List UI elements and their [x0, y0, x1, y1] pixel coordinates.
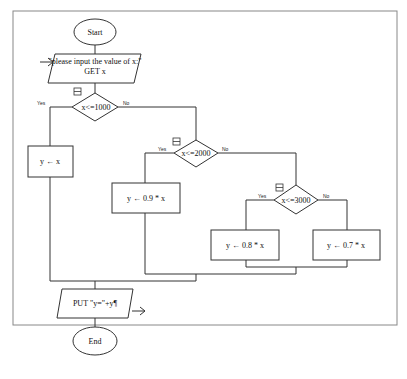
- start-terminal[interactable]: Start: [74, 19, 116, 45]
- no-label: No: [323, 193, 330, 199]
- no-branch-3: [318, 200, 347, 230]
- output-arrow-icon: [132, 307, 145, 315]
- output-step[interactable]: PUT "y="+y¶: [57, 289, 133, 318]
- svg-text:x<=1000: x<=1000: [81, 103, 110, 112]
- svg-text:x<=2000: x<=2000: [181, 149, 210, 158]
- no-branch-2: [218, 153, 296, 185]
- no-label: No: [123, 100, 130, 106]
- yes-label: Yes: [37, 100, 46, 106]
- process-y-eq-x[interactable]: y ← x: [28, 146, 73, 177]
- yes-branch-1: [50, 107, 72, 146]
- svg-text:x<=3000: x<=3000: [281, 196, 310, 205]
- collapse-icon[interactable]: [74, 88, 81, 95]
- svg-text:y ← 0.9 * x: y ← 0.9 * x: [127, 194, 165, 203]
- yes-branch-3: [246, 200, 274, 230]
- process-y-eq-0.8x[interactable]: y ← 0.8 * x: [211, 230, 279, 260]
- svg-text:y ← x: y ← x: [40, 157, 60, 166]
- svg-text:GET x: GET x: [84, 67, 105, 76]
- no-branch-1: [118, 107, 196, 146]
- svg-text:y ← 0.7 * x: y ← 0.7 * x: [327, 241, 365, 250]
- process-y-eq-0.9x[interactable]: y ← 0.9 * x: [112, 183, 180, 213]
- yes-label: Yes: [158, 146, 167, 152]
- decision-x-le-1000[interactable]: x<=1000: [72, 93, 118, 121]
- yes-label: Yes: [258, 193, 267, 199]
- decision-x-le-2000[interactable]: x<=2000: [174, 140, 218, 167]
- end-terminal[interactable]: End: [73, 327, 117, 355]
- merge-inner: [246, 260, 347, 267]
- svg-text:End: End: [89, 337, 102, 346]
- collapse-icon[interactable]: [173, 138, 180, 145]
- yes-branch-2: [145, 153, 174, 183]
- collapse-icon[interactable]: [276, 184, 283, 191]
- flowchart-canvas: Start "please input the value of x:" GET…: [0, 0, 407, 379]
- svg-text:y ← 0.8 * x: y ← 0.8 * x: [226, 241, 264, 250]
- svg-text:Start: Start: [87, 28, 103, 37]
- process-y-eq-0.7x[interactable]: y ← 0.7 * x: [313, 230, 380, 260]
- input-step[interactable]: "please input the value of x:" GET x: [48, 54, 141, 83]
- no-label: No: [222, 146, 229, 152]
- svg-text:"please input the value of x:": "please input the value of x:": [49, 57, 142, 66]
- svg-text:PUT "y="+y¶: PUT "y="+y¶: [73, 299, 118, 308]
